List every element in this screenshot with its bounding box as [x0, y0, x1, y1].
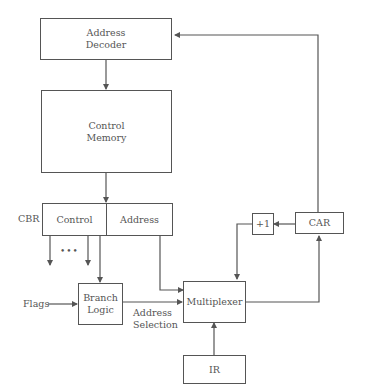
cbr-label: CBR — [18, 213, 39, 225]
block-label: Decoder — [86, 39, 127, 51]
address-selection-label: Address Selection — [133, 307, 178, 331]
block-label: IR — [209, 364, 220, 376]
flags-label: Flags — [23, 298, 49, 310]
cbr-control-field: Control — [42, 203, 107, 236]
block-label: Logic — [83, 304, 118, 316]
control-memory-block: ControlMemory — [41, 90, 172, 173]
block-label: Address — [120, 214, 159, 226]
cbr-address-field: Address — [106, 203, 173, 236]
ellipsis: ••• — [60, 245, 79, 257]
car-block: CAR — [295, 212, 344, 234]
block-label: +1 — [256, 218, 270, 230]
branch-logic-block: BranchLogic — [78, 283, 123, 325]
increment-block: +1 — [252, 213, 274, 235]
address-decoder-block: AddressDecoder — [40, 18, 172, 60]
block-label: Control — [87, 120, 127, 132]
block-label: Multiplexer — [186, 296, 242, 308]
block-label: Branch — [83, 292, 118, 304]
label-line: Address — [133, 307, 178, 319]
block-label: Address — [86, 27, 127, 39]
block-label: Control — [56, 214, 92, 226]
multiplexer-block: Multiplexer — [183, 281, 246, 323]
label-line: Selection — [133, 319, 178, 331]
block-label: Memory — [87, 132, 127, 144]
ir-block: IR — [183, 355, 246, 384]
block-label: CAR — [309, 217, 330, 229]
